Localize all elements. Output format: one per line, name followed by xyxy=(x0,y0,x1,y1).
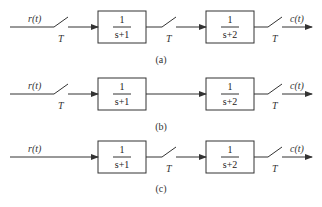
sampler-label: T xyxy=(272,33,279,44)
block-2-denominator: s+2 xyxy=(223,29,238,40)
caption-b: (b) xyxy=(155,121,167,133)
sampler-switch-output xyxy=(268,17,282,27)
output-label-c: c(t) xyxy=(290,143,305,155)
sampler-switch-between xyxy=(162,17,176,27)
input-label-b: r(t) xyxy=(28,80,42,92)
input-label-c: r(t) xyxy=(28,143,42,155)
output-label-a: c(t) xyxy=(290,13,305,25)
block-1-denominator: s+1 xyxy=(115,96,130,107)
block-1-denominator: s+1 xyxy=(115,29,130,40)
diagram-b xyxy=(10,78,312,110)
diagram-canvas: r(t) T 1 s+1 T 1 s+2 T c(t) (a) r(t) T 1… xyxy=(0,0,322,207)
sampler-label: T xyxy=(272,163,279,174)
caption-c: (c) xyxy=(155,183,166,195)
block-1-numerator: 1 xyxy=(120,81,125,92)
block-2-denominator: s+2 xyxy=(223,159,238,170)
block-1-denominator: s+1 xyxy=(115,159,130,170)
diagram-c xyxy=(10,141,312,173)
block-2-numerator: 1 xyxy=(228,81,233,92)
sampler-label: T xyxy=(166,163,173,174)
output-label-b: c(t) xyxy=(290,80,305,92)
block-1-numerator: 1 xyxy=(120,14,125,25)
sampler-label: T xyxy=(272,100,279,111)
caption-a: (a) xyxy=(155,54,166,66)
block-2-numerator: 1 xyxy=(228,144,233,155)
sampler-label: T xyxy=(166,33,173,44)
block-2-denominator: s+2 xyxy=(223,96,238,107)
block-1-numerator: 1 xyxy=(120,144,125,155)
diagram-a xyxy=(10,11,312,43)
block-2-numerator: 1 xyxy=(228,14,233,25)
sampler-switch-input xyxy=(54,17,68,27)
sampler-label: T xyxy=(58,100,65,111)
input-label-a: r(t) xyxy=(28,13,42,25)
sampled-system-diagrams: r(t) T 1 s+1 T 1 s+2 T c(t) (a) r(t) T 1… xyxy=(0,0,322,207)
sampler-label: T xyxy=(58,33,65,44)
